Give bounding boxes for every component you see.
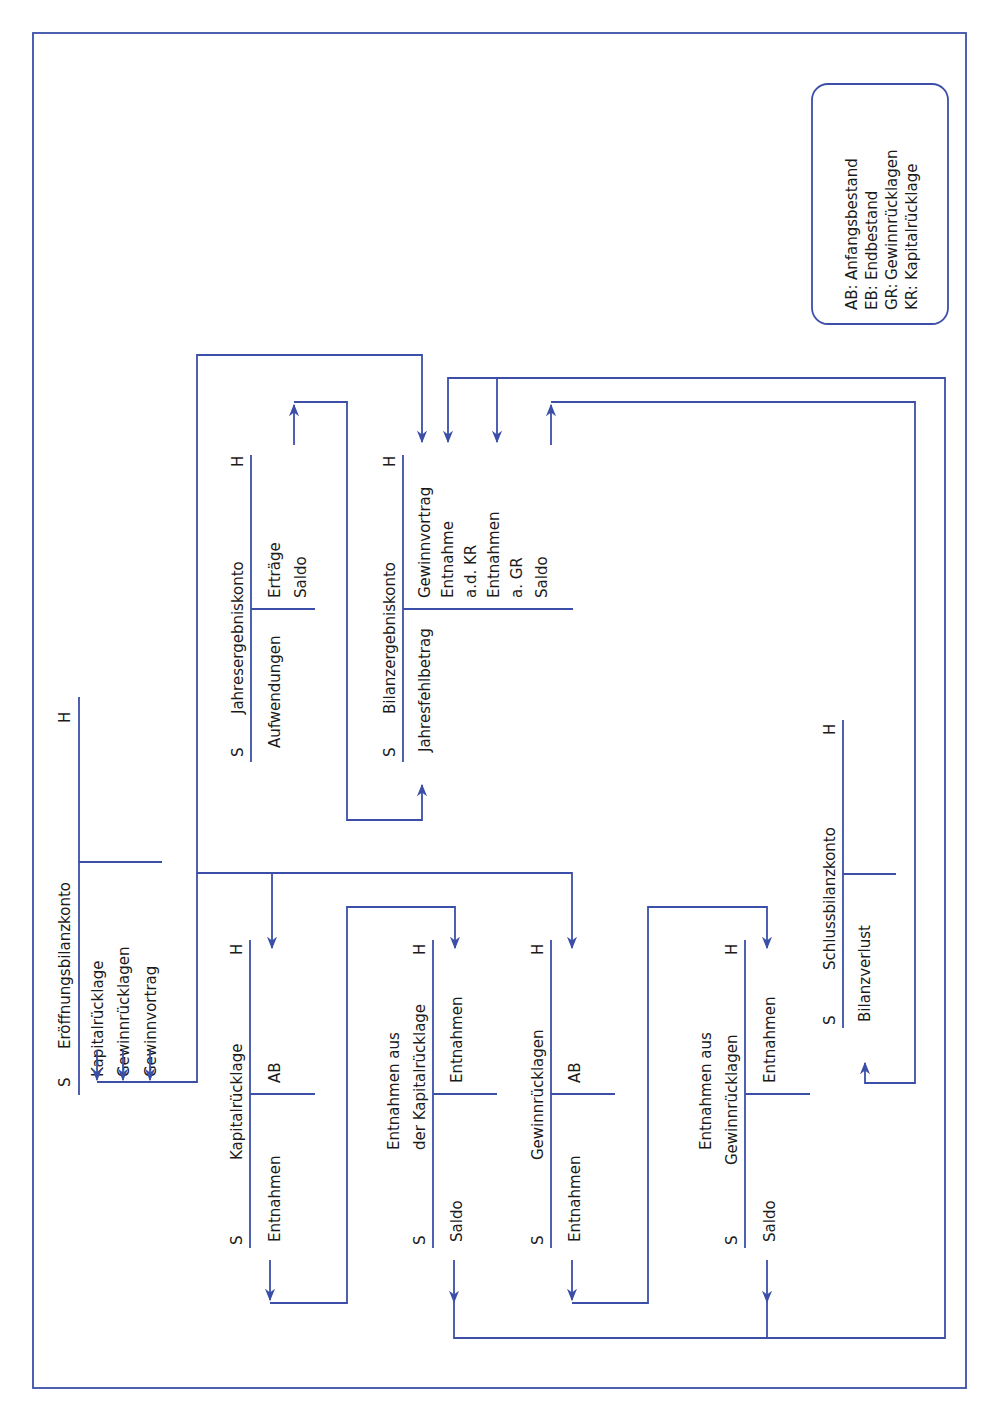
- entry: Jahresfehlbetrag: [416, 628, 434, 753]
- entry: Gewinnvortrag: [416, 487, 434, 598]
- account-title: Jahresergebniskonto: [229, 561, 247, 715]
- account-title-line2: der Kapitalrücklage: [411, 1004, 429, 1150]
- debit-label: S: [228, 1235, 246, 1245]
- entry: Saldo: [533, 556, 551, 598]
- legend-abbr-ab: AB:: [843, 284, 861, 310]
- credit-label: H: [411, 944, 429, 955]
- legend-abbr-gr: GR:: [883, 283, 901, 310]
- entry: Aufwendungen: [266, 635, 284, 748]
- entry: Bilanzverlust: [856, 925, 874, 1022]
- entry: Entnahmen: [761, 997, 779, 1083]
- debit-label: S: [529, 1235, 547, 1245]
- debit-label: S: [821, 1015, 839, 1025]
- account-title-line1: Entnahmen aus: [697, 1032, 715, 1150]
- entry: Entnahme: [439, 521, 457, 598]
- credit-label: H: [229, 456, 247, 467]
- debit-label: S: [381, 747, 399, 757]
- entry: Saldo: [292, 556, 310, 598]
- credit-label: H: [56, 712, 74, 723]
- entry: a.d. KR: [462, 545, 480, 598]
- debit-label: S: [56, 1077, 74, 1087]
- account-entnahmen-kapitalruecklage: S Entnahmen aus der Kapitalrücklage H Sa…: [385, 940, 497, 1248]
- entry: Kapitalrücklage: [89, 961, 107, 1077]
- account-schlussbilanzkonto: S Schlussbilanzkonto H Bilanzverlust: [821, 720, 896, 1028]
- credit-label: H: [529, 944, 547, 955]
- legend-box: AB: Anfangsbestand EB: Endbestand GR: Ge…: [812, 84, 948, 324]
- account-gewinnruecklagen: S Gewinnrücklagen H Entnahmen AB: [529, 940, 615, 1248]
- account-title: Schlussbilanzkonto: [821, 827, 839, 970]
- credit-label: H: [723, 944, 741, 955]
- entry: Entnahmen: [566, 1156, 584, 1242]
- entry: Entnahmen: [485, 512, 503, 598]
- entry: a. GR: [508, 557, 526, 598]
- credit-label: H: [381, 456, 399, 467]
- legend-text-kr: Kapitalrücklage: [903, 164, 921, 280]
- diagram-frame: [33, 33, 966, 1388]
- legend-text-eb: Endbestand: [863, 191, 881, 280]
- entry: Gewinnrücklagen: [115, 946, 133, 1077]
- account-title: Kapitalrücklage: [228, 1044, 246, 1160]
- legend-text-gr: Gewinnrücklagen: [883, 149, 901, 280]
- entry: Saldo: [448, 1200, 466, 1242]
- flow-lines: [97, 355, 945, 1338]
- entry: Erträge: [266, 542, 284, 598]
- account-title: Gewinnrücklagen: [529, 1029, 547, 1160]
- account-title: Bilanzergebniskonto: [381, 562, 399, 714]
- legend-text-ab: Anfangsbestand: [843, 158, 861, 280]
- debit-label: S: [723, 1235, 741, 1245]
- entry: Gewinnvortrag: [142, 966, 160, 1077]
- account-bilanzergebniskonto: S Bilanzergebniskonto H Jahresfehlbetrag…: [381, 455, 573, 762]
- account-title-line1: Entnahmen aus: [385, 1032, 403, 1150]
- entry: Entnahmen: [266, 1156, 284, 1242]
- account-entnahmen-gewinnruecklagen: S Entnahmen aus Gewinnrücklagen H Saldo …: [697, 940, 810, 1248]
- legend-abbr-eb: EB:: [863, 285, 881, 310]
- entry: Entnahmen: [448, 997, 466, 1083]
- account-jahresergebniskonto: S Jahresergebniskonto H Aufwendungen Ert…: [229, 455, 315, 762]
- debit-label: S: [411, 1235, 429, 1245]
- entry: AB: [266, 1062, 284, 1083]
- credit-label: H: [821, 724, 839, 735]
- debit-label: S: [229, 747, 247, 757]
- t-account-flow-diagram: AB: Anfangsbestand EB: Endbestand GR: Ge…: [0, 0, 993, 1417]
- account-title: Eröffnungsbilanzkonto: [56, 882, 74, 1049]
- account-eroeffnungsbilanzkonto: S Eröffnungsbilanzkonto H Kapitalrücklag…: [56, 697, 162, 1095]
- account-title-line2: Gewinnrücklagen: [723, 1034, 741, 1165]
- entry: Saldo: [761, 1200, 779, 1242]
- entry: AB: [566, 1062, 584, 1083]
- credit-label: H: [228, 944, 246, 955]
- account-kapitalruecklage: S Kapitalrücklage H Entnahmen AB: [228, 940, 315, 1248]
- legend-abbr-kr: KR:: [903, 285, 921, 310]
